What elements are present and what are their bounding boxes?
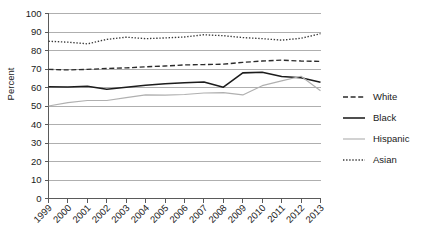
y-tick-label: 50 xyxy=(31,100,42,111)
line-chart-figure: 0102030405060708090100 19992000200120022… xyxy=(0,0,434,249)
x-tick-label: 2001 xyxy=(70,202,93,225)
y-axis-title-text: Percent xyxy=(5,67,16,100)
y-tick-label: 90 xyxy=(31,26,42,37)
x-tick-label: 2009 xyxy=(225,202,248,225)
y-axis-ticks xyxy=(45,14,49,199)
legend-label-white[interactable]: White xyxy=(373,91,397,102)
series-line-hispanic xyxy=(49,76,321,106)
chart-legend: WhiteBlackHispanicAsian xyxy=(343,91,410,165)
gridlines xyxy=(49,14,321,199)
x-axis-ticks xyxy=(49,199,321,203)
y-tick-label: 40 xyxy=(31,119,42,130)
x-axis-tick-labels: 1999200020012002200320042005200620072008… xyxy=(31,202,326,225)
chart-plot-area: 0102030405060708090100 19992000200120022… xyxy=(0,0,434,249)
x-tick-label: 2007 xyxy=(187,202,210,225)
x-tick-label: 2006 xyxy=(167,202,190,225)
x-tick-label: 2008 xyxy=(206,202,229,225)
y-tick-label: 10 xyxy=(31,174,42,185)
x-tick-label: 2013 xyxy=(303,202,326,225)
y-tick-label: 60 xyxy=(31,82,42,93)
series-line-white xyxy=(49,60,321,70)
series-line-asian xyxy=(49,34,321,44)
x-tick-label: 2003 xyxy=(109,202,132,225)
y-axis-title: Percent xyxy=(5,67,16,100)
legend-label-asian[interactable]: Asian xyxy=(373,154,397,165)
legend-label-hispanic[interactable]: Hispanic xyxy=(373,133,410,144)
x-tick-label: 2011 xyxy=(265,202,287,224)
y-tick-label: 70 xyxy=(31,63,42,74)
y-tick-label: 0 xyxy=(36,193,41,204)
x-tick-label: 2012 xyxy=(284,202,307,225)
x-tick-label: 2005 xyxy=(148,202,171,225)
y-axis-tick-labels: 0102030405060708090100 xyxy=(26,8,42,204)
legend-label-black[interactable]: Black xyxy=(373,112,396,123)
y-tick-label: 100 xyxy=(26,8,42,19)
y-tick-label: 30 xyxy=(31,137,42,148)
x-tick-label: 2002 xyxy=(89,202,112,225)
x-tick-label: 2010 xyxy=(245,202,268,225)
x-tick-label: 2004 xyxy=(128,202,151,225)
y-tick-label: 20 xyxy=(31,156,42,167)
data-series xyxy=(49,34,321,106)
x-tick-label: 1999 xyxy=(31,202,54,225)
x-tick-label: 2000 xyxy=(51,202,74,225)
y-tick-label: 80 xyxy=(31,45,42,56)
